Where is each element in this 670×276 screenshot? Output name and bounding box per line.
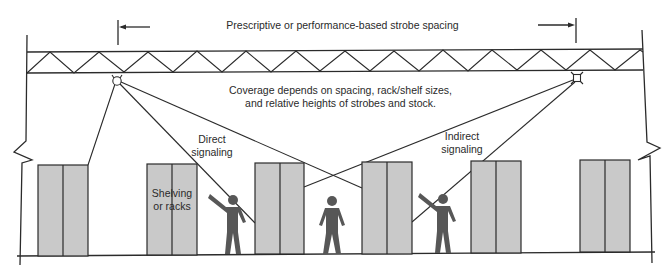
rack-5	[471, 161, 521, 253]
spacing-label: Prescriptive or performance-based strobe…	[150, 19, 535, 32]
indirect-signaling-line-2: signaling	[432, 143, 492, 156]
coverage-note-line-1: Coverage depends on spacing, rack/shelf …	[228, 84, 453, 97]
direct-signaling-line-1: Direct	[182, 133, 242, 146]
coverage-note: Coverage depends on spacing, rack/shelf …	[228, 84, 453, 109]
coverage-note-line-2: and relative heights of strobes and stoc…	[228, 97, 453, 110]
rack-6	[580, 160, 630, 252]
right-wall	[638, 30, 660, 263]
direct-signaling-label: Direct signaling	[182, 133, 242, 158]
spacing-label-text: Prescriptive or performance-based strobe…	[226, 19, 458, 31]
rack-1	[38, 165, 88, 256]
shelving-line-1: Shelving	[147, 187, 197, 200]
shelving-label: Shelving or racks	[147, 187, 197, 212]
strobe-left-icon	[112, 75, 122, 85]
left-wall	[14, 35, 32, 265]
shelving-line-2: or racks	[147, 200, 197, 213]
warehouse-strobe-diagram	[0, 0, 670, 276]
person-standing-icon	[319, 196, 345, 254]
indirect-signaling-line-1: Indirect	[432, 130, 492, 143]
roof-truss	[27, 49, 643, 73]
direct-signaling-line-2: signaling	[182, 146, 242, 159]
person-pointing-right-icon	[418, 193, 456, 253]
person-pointing-left-icon	[208, 194, 246, 254]
strobe-right-icon	[571, 72, 583, 84]
rack-3	[255, 163, 304, 254]
rack-4	[362, 162, 412, 254]
indirect-signaling-label: Indirect signaling	[432, 130, 492, 155]
